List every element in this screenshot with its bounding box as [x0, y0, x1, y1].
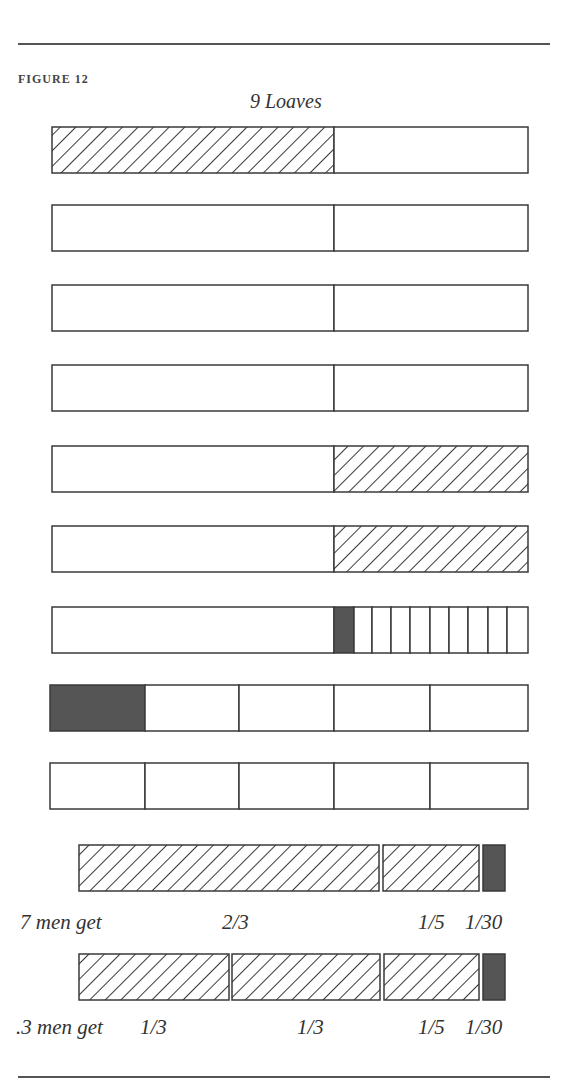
seven-men-label: 7 men get: [20, 910, 102, 935]
segment-empty: [372, 607, 391, 653]
segment-empty: [334, 205, 528, 251]
segment-empty: [239, 685, 334, 731]
three-share-one-thirtieth: 1/30: [465, 1015, 502, 1040]
segment-empty: [334, 685, 430, 731]
segment-empty: [52, 446, 334, 492]
segment-empty: [52, 205, 334, 251]
seven-share-two-thirds: 2/3: [222, 910, 249, 935]
loaf-3: [52, 285, 528, 331]
loaf-8: [50, 685, 528, 731]
segment-dark: [483, 845, 505, 891]
seven-men-share-bar: [79, 845, 505, 891]
seven-share-one-fifth: 1/5: [418, 910, 445, 935]
segment-empty: [145, 685, 239, 731]
loaf-5: [52, 446, 528, 492]
three-share-second-third: 1/3: [297, 1015, 324, 1040]
segment-hatch: [384, 954, 479, 1000]
segment-hatch: [52, 127, 334, 173]
segment-empty: [50, 763, 145, 809]
segment-empty: [52, 285, 334, 331]
segment-empty: [334, 127, 528, 173]
segment-empty: [239, 763, 334, 809]
segment-hatch: [334, 446, 528, 492]
segment-empty: [354, 607, 372, 653]
three-men-label: .3 men get: [16, 1015, 103, 1040]
segment-empty: [334, 763, 430, 809]
loaf-4: [52, 365, 528, 411]
segment-empty: [52, 607, 334, 653]
three-men-share-bar: [79, 954, 505, 1000]
three-share-one-fifth: 1/5: [418, 1015, 445, 1040]
segment-empty: [410, 607, 430, 653]
segment-empty: [449, 607, 468, 653]
segment-empty: [52, 365, 334, 411]
three-share-first-third: 1/3: [140, 1015, 167, 1040]
segment-hatch: [383, 845, 479, 891]
segment-hatch: [79, 954, 229, 1000]
bottom-rule: [18, 1076, 550, 1078]
segment-dark: [334, 607, 354, 653]
segment-dark: [50, 685, 145, 731]
segment-empty: [507, 607, 528, 653]
segment-empty: [430, 685, 528, 731]
segment-empty: [52, 526, 334, 572]
segment-hatch: [232, 954, 380, 1000]
segment-empty: [468, 607, 488, 653]
segment-empty: [334, 285, 528, 331]
segment-hatch: [334, 526, 528, 572]
segment-empty: [430, 607, 449, 653]
segment-hatch: [79, 845, 379, 891]
seven-share-one-thirtieth: 1/30: [465, 910, 502, 935]
segment-empty: [391, 607, 410, 653]
loaf-9: [50, 763, 528, 809]
loaf-6: [52, 526, 528, 572]
segment-empty: [488, 607, 507, 653]
loaf-7: [52, 607, 528, 653]
segment-empty: [430, 763, 528, 809]
bars-group: [50, 127, 528, 1000]
segment-empty: [334, 365, 528, 411]
segment-empty: [145, 763, 239, 809]
loaf-1: [52, 127, 528, 173]
segment-dark: [483, 954, 505, 1000]
loaf-2: [52, 205, 528, 251]
